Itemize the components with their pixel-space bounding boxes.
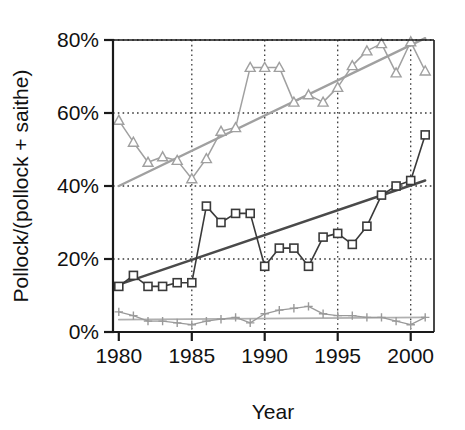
square-series-marker (202, 202, 210, 210)
x-axis-title: Year (252, 400, 294, 423)
chart-figure: 0%20%40%60%80%19801985199019952000 Year … (0, 0, 465, 430)
square-series-marker (378, 191, 386, 199)
x-tick-label-1985: 1985 (168, 344, 215, 367)
y-tick-label-0: 0% (69, 320, 99, 343)
square-series-marker (129, 271, 137, 279)
square-series-marker (363, 222, 371, 230)
pollock-saithe-line-chart: 0%20%40%60%80%19801985199019952000 Year … (0, 0, 465, 430)
y-tick-label-80: 80% (57, 28, 99, 51)
y-tick-label-60: 60% (57, 101, 99, 124)
square-series-marker (319, 233, 327, 241)
square-series-marker (392, 182, 400, 190)
square-series-marker (188, 279, 196, 287)
square-series-marker (334, 229, 342, 237)
square-series-marker (348, 240, 356, 248)
x-tick-label-1990: 1990 (241, 344, 288, 367)
x-tick-label-1980: 1980 (95, 344, 142, 367)
y-tick-label-40: 40% (57, 174, 99, 197)
square-series-marker (261, 262, 269, 270)
square-series-marker (115, 282, 123, 290)
square-series-marker (232, 209, 240, 217)
x-tick-label-1995: 1995 (314, 344, 361, 367)
square-series-marker (173, 279, 181, 287)
y-axis-title: Pollock/(pollock + saithe) (9, 70, 32, 303)
square-series-marker (407, 177, 415, 185)
square-series-marker (421, 131, 429, 139)
square-series-marker (246, 209, 254, 217)
square-series-marker (290, 244, 298, 252)
square-series-marker (217, 219, 225, 227)
square-series-marker (305, 262, 313, 270)
square-series-marker (144, 282, 152, 290)
square-series-marker (275, 244, 283, 252)
y-tick-label-20: 20% (57, 247, 99, 270)
square-series-marker (159, 282, 167, 290)
x-tick-label-2000: 2000 (387, 344, 434, 367)
